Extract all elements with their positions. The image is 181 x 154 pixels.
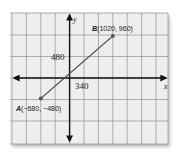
- point-b: [111, 34, 115, 38]
- point-a-label: A(−680, −480): [15, 105, 61, 113]
- coordinate-plane: y x 480 340 B(1020, 960) A(−680, −480): [0, 0, 181, 154]
- tick-label-x: 340: [75, 81, 89, 91]
- point-b-coords: (1020, 960): [97, 25, 133, 33]
- point-a: [39, 97, 43, 101]
- point-b-label: B(1020, 960): [92, 25, 133, 33]
- y-axis-label: y: [72, 15, 77, 24]
- tick-label-y: 480: [51, 52, 65, 62]
- x-axis-label: x: [163, 82, 168, 91]
- point-a-coords: (−680, −480): [21, 105, 61, 113]
